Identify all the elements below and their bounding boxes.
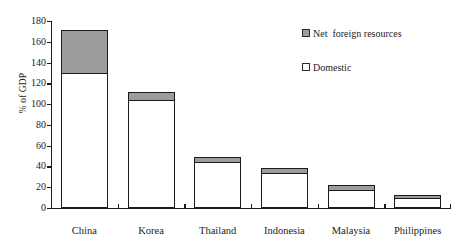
stacked-bar-chart: % of GDP 020406080100120140160180 ChinaK… bbox=[0, 0, 457, 250]
legend-swatch-icon-foreign bbox=[302, 29, 310, 37]
bar-segment-domestic bbox=[394, 198, 441, 208]
legend-label-domestic: Domestic bbox=[313, 62, 351, 73]
y-tick-label: 180 bbox=[18, 16, 46, 26]
x-tick-label: Malaysia bbox=[318, 224, 385, 237]
bar-malaysia bbox=[328, 185, 375, 208]
y-tick-label: 160 bbox=[18, 37, 46, 47]
y-tick-label: 40 bbox=[18, 161, 46, 171]
y-tick-label: 0 bbox=[18, 203, 46, 213]
bar-thailand bbox=[194, 157, 241, 208]
bar-segment-net-foreign-resources bbox=[328, 185, 375, 191]
y-tick-label: 140 bbox=[18, 58, 46, 68]
bar-segment-net-foreign-resources bbox=[261, 168, 308, 174]
bar-indonesia bbox=[261, 167, 308, 208]
bar-segment-net-foreign-resources bbox=[61, 30, 108, 74]
bar-segment-domestic bbox=[128, 100, 175, 208]
x-axis-category-labels: ChinaKoreaThailandIndonesiaMalaysiaPhili… bbox=[51, 224, 451, 242]
y-tick-label: 100 bbox=[18, 99, 46, 109]
legend-item-net-foreign-resources: Net foreign resources bbox=[302, 27, 452, 39]
bar-segment-domestic bbox=[261, 173, 308, 208]
y-tick-label: 60 bbox=[18, 141, 46, 151]
bar-segment-domestic bbox=[194, 162, 241, 208]
bar-segment-domestic bbox=[328, 190, 375, 208]
bar-segment-net-foreign-resources bbox=[194, 157, 241, 163]
y-axis-tick-labels: 020406080100120140160180 bbox=[18, 0, 46, 250]
x-tick-label: Indonesia bbox=[251, 224, 318, 237]
x-tick-label: Korea bbox=[118, 224, 185, 237]
y-tick-label: 80 bbox=[18, 120, 46, 130]
legend-item-domestic: Domestic bbox=[302, 61, 452, 73]
legend-label-foreign: Net foreign resources bbox=[313, 28, 402, 39]
bar-korea bbox=[128, 92, 175, 208]
bar-segment-net-foreign-resources bbox=[394, 195, 441, 199]
y-tick-label: 120 bbox=[18, 78, 46, 88]
y-tick-label: 20 bbox=[18, 182, 46, 192]
x-axis-line bbox=[51, 208, 451, 209]
x-tick-label: Thailand bbox=[184, 224, 251, 237]
chart-legend: Net foreign resources Domestic bbox=[302, 27, 452, 95]
bar-segment-domestic bbox=[61, 73, 108, 208]
x-tick-label: China bbox=[51, 224, 118, 237]
bar-china bbox=[61, 30, 108, 208]
bar-segment-net-foreign-resources bbox=[128, 92, 175, 101]
legend-swatch-icon-domestic bbox=[302, 63, 310, 71]
bar-philippines bbox=[394, 195, 441, 209]
x-tick-label: Philippines bbox=[384, 224, 451, 237]
